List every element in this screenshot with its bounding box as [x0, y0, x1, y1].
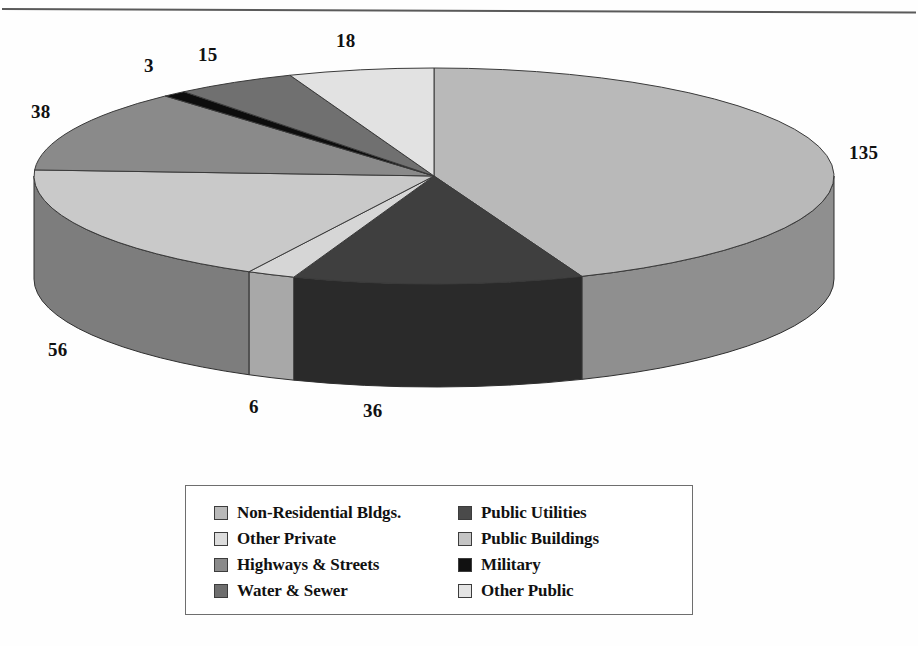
- pie-slice-side-public-utilities[interactable]: [294, 276, 582, 387]
- chart-canvas: 135 36 6 56 38 3 15 18 Non-Residential B…: [0, 0, 918, 646]
- legend-item-military[interactable]: Military: [458, 555, 684, 575]
- legend-label: Highways & Streets: [237, 555, 379, 575]
- legend-swatch-icon: [458, 532, 472, 546]
- data-label-6: 6: [249, 396, 259, 418]
- legend-label: Non-Residential Bldgs.: [237, 503, 401, 523]
- legend-swatch-icon: [458, 506, 472, 520]
- data-label-3: 3: [144, 55, 154, 77]
- legend-grid: Non-Residential Bldgs.Public UtilitiesOt…: [214, 500, 684, 604]
- data-label-38: 38: [31, 101, 51, 123]
- legend-label: Public Utilities: [481, 503, 587, 523]
- legend-swatch-icon: [214, 584, 228, 598]
- legend-item-non-residential-bldgs[interactable]: Non-Residential Bldgs.: [214, 503, 458, 523]
- data-label-18: 18: [336, 30, 356, 52]
- legend-swatch-icon: [214, 506, 228, 520]
- data-label-56: 56: [48, 339, 68, 361]
- data-label-135: 135: [849, 142, 878, 164]
- legend-item-highways-streets[interactable]: Highways & Streets: [214, 555, 458, 575]
- legend-swatch-icon: [214, 558, 228, 572]
- legend-label: Water & Sewer: [237, 581, 348, 601]
- legend-label: Public Buildings: [481, 529, 599, 549]
- pie-slices-group: [34, 68, 834, 387]
- legend-item-public-buildings[interactable]: Public Buildings: [458, 529, 684, 549]
- data-label-36: 36: [363, 400, 383, 422]
- legend-item-other-private[interactable]: Other Private: [214, 529, 458, 549]
- legend-swatch-icon: [458, 584, 472, 598]
- pie-slice-side-public-buildings[interactable]: [249, 272, 294, 380]
- legend-label: Other Private: [237, 529, 336, 549]
- data-label-15: 15: [198, 44, 218, 66]
- legend-swatch-icon: [214, 532, 228, 546]
- legend-item-other-public[interactable]: Other Public: [458, 581, 684, 601]
- legend-swatch-icon: [458, 558, 472, 572]
- chart-legend: Non-Residential Bldgs.Public UtilitiesOt…: [185, 485, 693, 615]
- legend-item-public-utilities[interactable]: Public Utilities: [458, 503, 684, 523]
- legend-label: Military: [481, 555, 541, 575]
- legend-item-water-sewer[interactable]: Water & Sewer: [214, 581, 458, 601]
- legend-label: Other Public: [481, 581, 573, 601]
